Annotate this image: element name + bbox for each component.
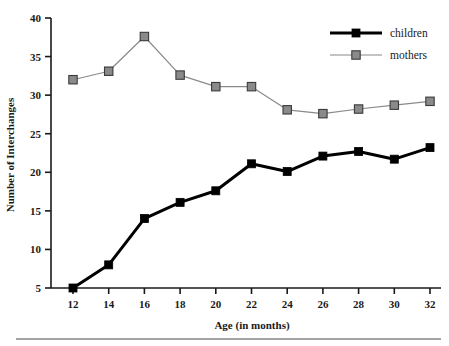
data-point-marker[interactable]: [319, 152, 327, 160]
data-point-marker[interactable]: [354, 105, 362, 113]
x-axis-tick-label: 22: [246, 298, 258, 310]
x-axis-tick-label: 28: [353, 298, 365, 310]
data-point-marker[interactable]: [390, 155, 398, 163]
data-point-marker[interactable]: [426, 144, 434, 152]
data-point-marker[interactable]: [176, 198, 184, 206]
data-point-marker[interactable]: [212, 82, 220, 90]
data-point-marker[interactable]: [248, 160, 256, 168]
y-axis-tick-label: 25: [30, 128, 42, 140]
data-point-marker[interactable]: [69, 284, 77, 292]
y-axis-tick-label: 35: [30, 51, 42, 63]
data-point-marker[interactable]: [355, 147, 363, 155]
data-point-marker[interactable]: [105, 67, 113, 75]
legend-marker-mothers: [352, 51, 360, 59]
data-point-marker[interactable]: [140, 215, 148, 223]
data-point-marker[interactable]: [390, 101, 398, 109]
data-point-marker[interactable]: [69, 76, 77, 84]
legend-label-children: children: [390, 27, 428, 39]
legend-marker-children: [352, 29, 360, 37]
y-axis-title: Number of Interchanges: [4, 97, 16, 212]
y-axis-tick-label: 30: [30, 89, 42, 101]
x-axis-tick-label: 30: [389, 298, 401, 310]
chart-background: [0, 0, 449, 346]
x-axis-tick-label: 24: [282, 298, 294, 310]
line-chart: 510152025303540 1214161820222426283032 N…: [0, 0, 449, 346]
y-axis-tick-label: 5: [36, 282, 42, 294]
data-point-marker[interactable]: [319, 109, 327, 117]
chart-figure: 510152025303540 1214161820222426283032 N…: [0, 0, 449, 346]
legend-label-mothers: mothers: [390, 49, 428, 61]
x-axis-tick-label: 12: [68, 298, 80, 310]
data-point-marker[interactable]: [105, 261, 113, 269]
data-point-marker[interactable]: [283, 168, 291, 176]
x-axis-tick-label: 18: [175, 298, 187, 310]
y-axis-tick-label: 10: [30, 243, 42, 255]
data-point-marker[interactable]: [247, 82, 255, 90]
x-axis-tick-label: 26: [317, 298, 329, 310]
data-point-marker[interactable]: [140, 32, 148, 40]
x-axis-tick-label: 32: [425, 298, 437, 310]
x-axis-tick-label: 16: [139, 298, 151, 310]
y-axis-tick-label: 15: [30, 205, 42, 217]
data-point-marker[interactable]: [176, 71, 184, 79]
x-axis-title: Age (in months): [214, 319, 290, 332]
x-axis-tick-label: 20: [210, 298, 222, 310]
data-point-marker[interactable]: [283, 106, 291, 114]
data-point-marker[interactable]: [426, 97, 434, 105]
y-axis-tick-label: 40: [30, 12, 42, 24]
data-point-marker[interactable]: [212, 187, 220, 195]
x-axis-tick-label: 14: [103, 298, 115, 310]
y-axis-tick-label: 20: [30, 166, 42, 178]
